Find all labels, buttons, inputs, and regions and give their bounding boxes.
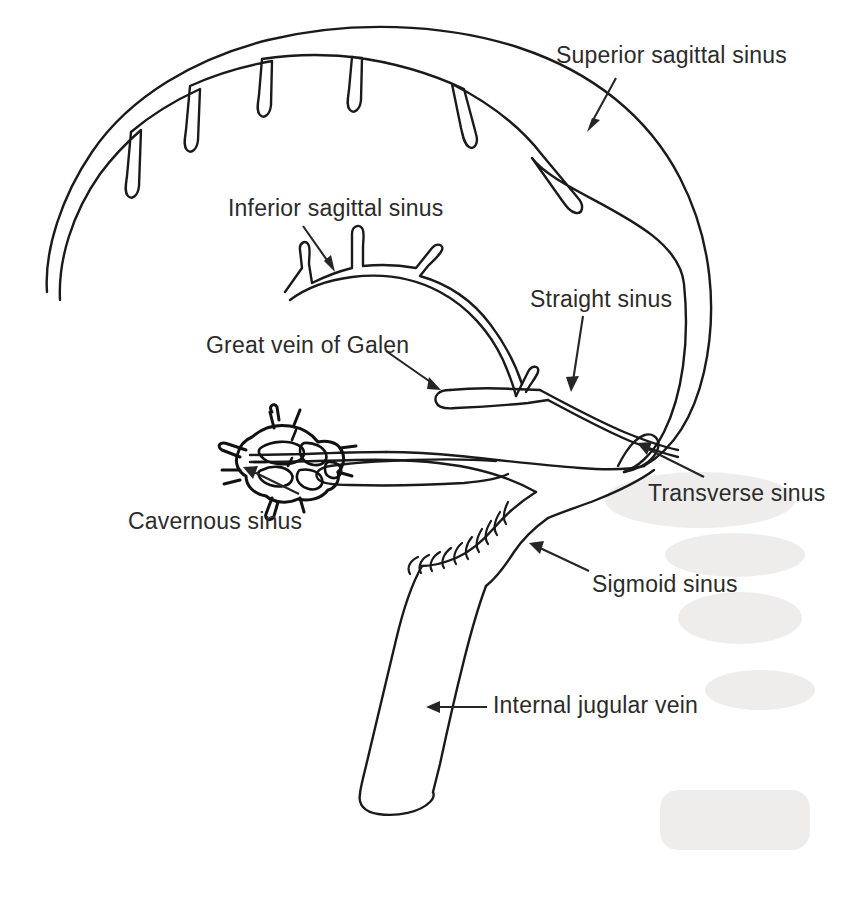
label-transverse-sinus: Transverse sinus — [648, 482, 825, 505]
superior-sagittal-sinus-arc — [47, 27, 711, 472]
leader-straight-sinus — [566, 316, 583, 392]
label-cavernous-sinus: Cavernous sinus — [128, 510, 302, 533]
label-straight-sinus: Straight sinus — [530, 288, 672, 311]
great-vein-of-galen-trunk — [436, 388, 548, 408]
confluence-and-transverse-sinus — [250, 434, 659, 518]
label-sigmoid-sinus: Sigmoid sinus — [592, 573, 738, 596]
leader-superior-sagittal-sinus — [587, 78, 616, 132]
internal-jugular-vein-trunk — [360, 566, 486, 815]
leader-inferior-sagittal-sinus — [303, 226, 335, 272]
scan-smudges — [605, 472, 815, 850]
label-superior-sagittal-sinus: Superior sagittal sinus — [556, 44, 787, 67]
leader-internal-jugular-vein — [426, 701, 487, 713]
dural-venous-sinus-diagram: Superior sagittal sinus Inferior sagitta… — [0, 0, 843, 899]
leader-lines — [243, 78, 704, 713]
sigmoid-hatch-marks — [409, 502, 508, 574]
label-great-vein-of-galen: Great vein of Galen — [206, 334, 409, 357]
straight-sinus-limb — [516, 367, 678, 457]
leader-sigmoid-sinus — [529, 541, 589, 571]
diagram-canvas — [0, 0, 843, 899]
label-inferior-sagittal-sinus: Inferior sagittal sinus — [228, 197, 444, 220]
label-internal-jugular-vein: Internal jugular vein — [493, 694, 698, 717]
sigmoid-sinus-curve — [409, 492, 548, 586]
